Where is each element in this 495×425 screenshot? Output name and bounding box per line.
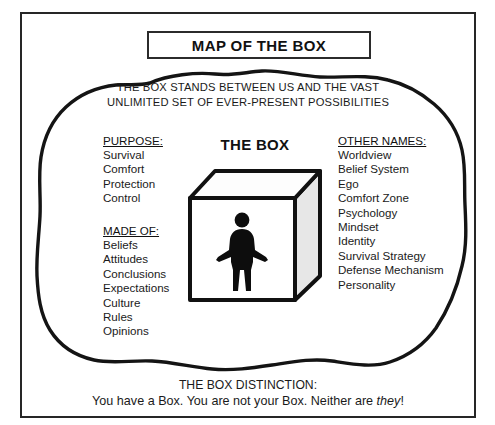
list-item: Psychology bbox=[338, 206, 444, 220]
list-item: Attitudes bbox=[103, 252, 169, 266]
list-item: Survival bbox=[103, 148, 163, 162]
purpose-heading: PURPOSE: bbox=[103, 134, 163, 147]
footer-suffix: ! bbox=[400, 394, 404, 408]
cube-icon bbox=[182, 158, 332, 310]
list-item: Mindset bbox=[338, 220, 444, 234]
made-of-list: Beliefs Attitudes Conclusions Expectatio… bbox=[103, 238, 169, 339]
list-item: Defense Mechanism bbox=[338, 263, 444, 277]
list-item: Belief System bbox=[338, 162, 444, 176]
list-item: Culture bbox=[103, 296, 169, 310]
page-title-box: MAP OF THE BOX bbox=[147, 31, 371, 59]
subtitle-line-1: THE BOX STANDS BETWEEN US AND THE VAST bbox=[78, 80, 418, 95]
footer: THE BOX DISTINCTION: You have a Box. You… bbox=[40, 377, 456, 410]
footer-statement: You have a Box. You are not your Box. Ne… bbox=[40, 393, 456, 410]
made-of-heading: MADE OF: bbox=[103, 224, 169, 237]
list-item: Conclusions bbox=[103, 267, 169, 281]
list-item: Ego bbox=[338, 177, 444, 191]
list-item: Control bbox=[103, 191, 163, 205]
list-item: Comfort bbox=[103, 162, 163, 176]
subtitle-line-2: UNLIMITED SET OF EVER-PRESENT POSSIBILIT… bbox=[78, 95, 418, 110]
list-item: Beliefs bbox=[103, 238, 169, 252]
other-names-column: OTHER NAMES: Worldview Belief System Ego… bbox=[338, 134, 444, 292]
list-item: Personality bbox=[338, 278, 444, 292]
purpose-column: PURPOSE: Survival Comfort Protection Con… bbox=[103, 134, 163, 206]
list-item: Protection bbox=[103, 177, 163, 191]
other-names-heading: OTHER NAMES: bbox=[338, 134, 444, 147]
made-of-column: MADE OF: Beliefs Attitudes Conclusions E… bbox=[103, 224, 169, 339]
list-item: Worldview bbox=[338, 148, 444, 162]
subtitle: THE BOX STANDS BETWEEN US AND THE VAST U… bbox=[78, 80, 418, 110]
purpose-list: Survival Comfort Protection Control bbox=[103, 148, 163, 206]
footer-prefix: You have a Box. You are not your Box. Ne… bbox=[92, 394, 376, 408]
box-label: THE BOX bbox=[195, 136, 315, 153]
list-item: Identity bbox=[338, 234, 444, 248]
footer-emphasis: they bbox=[377, 394, 401, 408]
map-of-the-box-page: MAP OF THE BOX THE BOX STANDS BETWEEN US… bbox=[0, 0, 495, 425]
page-title: MAP OF THE BOX bbox=[192, 37, 327, 54]
list-item: Survival Strategy bbox=[338, 249, 444, 263]
footer-heading: THE BOX DISTINCTION: bbox=[40, 377, 456, 393]
other-names-list: Worldview Belief System Ego Comfort Zone… bbox=[338, 148, 444, 292]
list-item: Comfort Zone bbox=[338, 191, 444, 205]
list-item: Expectations bbox=[103, 281, 169, 295]
list-item: Opinions bbox=[103, 324, 169, 338]
list-item: Rules bbox=[103, 310, 169, 324]
